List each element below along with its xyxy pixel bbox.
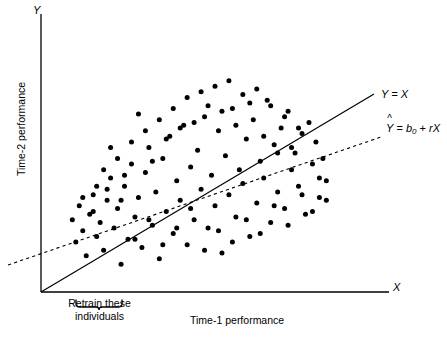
scatter-point bbox=[206, 226, 211, 231]
scatter-point bbox=[195, 148, 200, 153]
scatter-point bbox=[112, 226, 117, 231]
scatter-point bbox=[199, 89, 204, 94]
scatter-point bbox=[230, 106, 235, 111]
x-axis-title: Time-1 performance bbox=[190, 314, 284, 326]
scatter-point bbox=[216, 228, 221, 233]
retrain-annotation: Retrain these individuals bbox=[47, 296, 152, 322]
scatter-point bbox=[174, 226, 179, 231]
y-axis-tip-label: Y bbox=[33, 4, 40, 16]
scatter-point bbox=[310, 209, 315, 214]
scatter-point bbox=[143, 128, 148, 133]
scatter-point bbox=[185, 95, 190, 100]
scatter-point bbox=[206, 103, 211, 108]
plot-canvas bbox=[0, 0, 447, 346]
scatter-point bbox=[108, 145, 113, 150]
scatter-point bbox=[174, 178, 179, 183]
scatter-point bbox=[313, 139, 318, 144]
scatter-point bbox=[129, 162, 134, 167]
scatter-point bbox=[254, 201, 259, 206]
scatter-point bbox=[233, 123, 238, 128]
scatter-point bbox=[105, 187, 110, 192]
scatter-point bbox=[279, 125, 284, 130]
scatter-point bbox=[122, 173, 127, 178]
scatter-point bbox=[188, 206, 193, 211]
retrain-caption-line-2: individuals bbox=[47, 310, 152, 322]
scatter-point bbox=[268, 103, 273, 108]
scatter-point bbox=[209, 173, 214, 178]
scatter-point bbox=[108, 176, 113, 181]
scatter-point bbox=[84, 253, 89, 258]
scatter-point bbox=[192, 120, 197, 125]
scatter-point bbox=[126, 237, 131, 242]
scatter-point bbox=[226, 192, 231, 197]
scatter-point bbox=[296, 125, 301, 130]
scatter-point bbox=[132, 237, 137, 242]
scatter-point bbox=[282, 114, 287, 119]
scatter-point bbox=[115, 206, 120, 211]
scatter-point bbox=[91, 209, 96, 214]
scatter-point bbox=[286, 223, 291, 228]
scatter-point bbox=[98, 220, 103, 225]
scatter-point bbox=[251, 117, 256, 122]
scatter-point bbox=[223, 153, 228, 158]
scatter-point bbox=[258, 231, 263, 236]
identity-line-label: Y = X bbox=[381, 88, 408, 100]
y-hat-symbol: Y^ bbox=[386, 122, 393, 134]
scatter-point bbox=[146, 145, 151, 150]
scatter-point bbox=[244, 217, 249, 222]
scatter-point bbox=[70, 217, 75, 222]
scatter-point bbox=[289, 145, 294, 150]
scatter-point bbox=[160, 242, 165, 247]
scatter-point bbox=[265, 98, 270, 103]
scatter-point bbox=[230, 239, 235, 244]
scatter-point bbox=[300, 192, 305, 197]
scatter-point bbox=[157, 256, 162, 261]
scatter-point bbox=[275, 189, 280, 194]
scatter-point bbox=[219, 251, 224, 256]
scatter-point bbox=[101, 248, 106, 253]
scatter-point bbox=[213, 203, 218, 208]
identity-line bbox=[41, 94, 374, 292]
scatter-point bbox=[122, 184, 127, 189]
scatter-point bbox=[136, 112, 141, 117]
scatter-point bbox=[150, 159, 155, 164]
scatter-point bbox=[136, 195, 141, 200]
scatter-point bbox=[185, 242, 190, 247]
scatter-point bbox=[80, 228, 85, 233]
scatter-points-layer bbox=[70, 78, 329, 266]
scatter-point bbox=[240, 92, 245, 97]
scatter-point bbox=[272, 142, 277, 147]
scatter-point bbox=[164, 209, 169, 214]
scatter-point bbox=[202, 248, 207, 253]
scatter-point bbox=[254, 87, 259, 92]
scatter-point bbox=[202, 114, 207, 119]
scatter-point bbox=[219, 109, 224, 114]
regression-line-label: Y^ = b0 + rX bbox=[386, 122, 440, 136]
scatter-point bbox=[192, 217, 197, 222]
scatter-point bbox=[324, 198, 329, 203]
scatter-point bbox=[240, 181, 245, 186]
scatter-point bbox=[303, 212, 308, 217]
scatter-point bbox=[101, 167, 106, 172]
scatter-point bbox=[317, 195, 322, 200]
scatter-point bbox=[247, 234, 252, 239]
hat-accent-icon: ^ bbox=[386, 114, 393, 124]
slope-term: rX bbox=[429, 122, 440, 134]
scatter-point bbox=[178, 125, 183, 130]
scatter-point bbox=[153, 189, 158, 194]
scatter-point bbox=[178, 198, 183, 203]
scatter-point bbox=[258, 159, 263, 164]
scatter-point bbox=[171, 106, 176, 111]
scatter-point bbox=[143, 170, 148, 175]
x-axis-tip-label: X bbox=[393, 281, 400, 293]
scatter-point bbox=[164, 137, 169, 142]
scatter-point bbox=[286, 109, 291, 114]
scatter-point bbox=[199, 187, 204, 192]
scatter-point bbox=[105, 198, 110, 203]
scatter-point bbox=[261, 134, 266, 139]
scatter-point bbox=[119, 198, 124, 203]
scatter-point bbox=[171, 231, 176, 236]
scatter-point bbox=[94, 234, 99, 239]
scatter-point bbox=[268, 220, 273, 225]
scatter-point bbox=[237, 167, 242, 172]
